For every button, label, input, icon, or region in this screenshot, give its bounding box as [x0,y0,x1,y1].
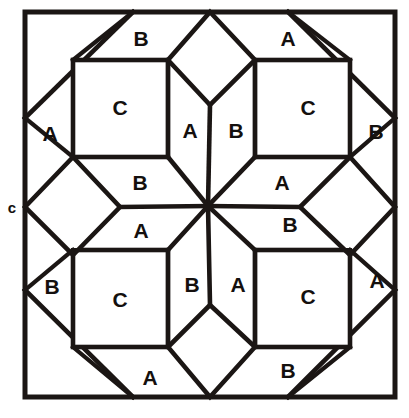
patch-label-tr-b-inner: B [228,119,243,142]
patch-label-bl-b-inner: B [184,273,199,296]
spoke-north [208,105,210,206]
patch-label-br-b-bottom: B [280,359,295,382]
patch-label-tl-a-inner: A [182,119,197,142]
patch-label-tl-b-top: B [133,27,148,50]
patch-label-br-b-top: B [282,213,297,236]
quilt-block-diagram: B A C C A A B B B A A B B C C B A A A B … [0,0,409,418]
patch-label-bl-a-bottom: A [142,366,157,389]
patch-label-tl-b-bottom: B [132,171,147,194]
patch-label-tl-c: C [112,96,127,119]
patch-label-tl-a-left: A [42,122,57,145]
patch-label-br-a-inner: A [230,273,245,296]
edge-label-left-c: c [8,199,16,216]
spoke-south [208,206,210,305]
edge-label-group: c [8,199,16,216]
patch-label-br-a-right: A [369,269,384,292]
spoke-east [208,206,300,207]
patch-label-bl-a-top: A [133,219,148,242]
patch-label-bl-b-left: B [44,275,59,298]
patch-label-tr-a-top: A [280,27,295,50]
patch-label-br-c: C [300,285,315,308]
patch-label-bl-c: C [112,288,127,311]
patch-label-tr-c: C [300,96,315,119]
patch-label-tr-b-right: B [368,120,383,143]
patch-label-tr-a-bottom: A [274,171,289,194]
spoke-west [120,206,208,207]
